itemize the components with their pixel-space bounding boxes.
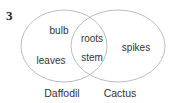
item-roots: roots: [81, 33, 103, 44]
cactus-set-ellipse: [71, 10, 165, 82]
set-label-cactus: Cactus: [104, 87, 137, 99]
daffodil-set-ellipse: [21, 10, 107, 82]
item-spikes: spikes: [122, 42, 150, 53]
item-bulb: bulb: [50, 25, 69, 36]
item-leaves: leaves: [37, 55, 66, 66]
set-label-daffodil: Daffodil: [44, 87, 79, 99]
item-stem: stem: [81, 52, 103, 63]
